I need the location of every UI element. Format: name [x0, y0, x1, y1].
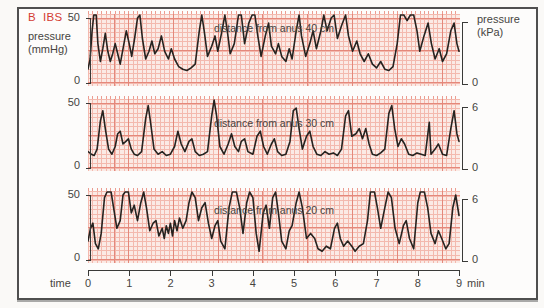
left-tick-0: 0 — [60, 74, 80, 86]
right-axis-bracket — [462, 22, 468, 85]
right-axis-bracket — [462, 107, 468, 170]
left-tick-0: 0 — [60, 251, 80, 263]
time-tick — [377, 270, 378, 276]
time-tick — [253, 270, 254, 276]
time-tick-label: 3 — [203, 277, 221, 289]
time-tick-label: 4 — [244, 277, 262, 289]
time-tick-label: 6 — [326, 277, 344, 289]
time-tick-label: 8 — [409, 277, 427, 289]
annotation-distance-30cm: distance from anus 30 cm — [88, 117, 460, 129]
left-tick-50: 50 — [60, 188, 80, 200]
time-tick — [294, 270, 295, 276]
pressure-trace-30cm — [88, 99, 460, 171]
time-tick-label: 5 — [285, 277, 303, 289]
left-tick-50: 50 — [60, 96, 80, 108]
pressure-panel-20cm: 50 0 6 0 distance from anus 20 cm — [88, 191, 460, 263]
time-axis-label: time — [50, 277, 71, 289]
time-tick — [129, 270, 130, 276]
time-tick — [418, 270, 419, 276]
time-tick-label: 0 — [79, 277, 97, 289]
time-tick — [88, 270, 89, 276]
time-axis-unit: min — [467, 277, 485, 289]
time-tick — [212, 270, 213, 276]
figure-ibs-pressure-recording: BIBS pressure (mmHg) pressure (kPa) 50 0… — [0, 0, 544, 308]
left-axis-title: pressure (mmHg) — [28, 30, 71, 56]
pressure-trace-20cm — [88, 191, 460, 263]
right-tick-0: 0 — [472, 253, 478, 265]
panel-heading: BIBS — [28, 11, 62, 23]
time-tick-label: 1 — [120, 277, 138, 289]
right-tick-0: 0 — [472, 76, 478, 88]
left-tick-50: 50 — [60, 11, 80, 23]
time-tick-label: 2 — [161, 277, 179, 289]
pressure-panel-40cm: 50 0 0 distance from anus 40 cm — [88, 14, 460, 86]
time-tick — [335, 270, 336, 276]
left-tick-0: 0 — [60, 159, 80, 171]
panel-letter: B — [28, 11, 36, 23]
time-axis-line — [88, 270, 460, 271]
right-axis-bracket — [462, 199, 468, 262]
time-tick — [170, 270, 171, 276]
right-tick-6: 6 — [472, 193, 478, 205]
pressure-panel-30cm: 50 0 6 0 distance from anus 30 cm — [88, 99, 460, 171]
left-axis-line — [86, 103, 91, 169]
right-tick-0: 0 — [472, 161, 478, 173]
time-tick-label: 9 — [450, 277, 468, 289]
time-axis: 0123456789 — [88, 270, 460, 298]
time-tick — [459, 270, 460, 276]
right-tick-6: 6 — [472, 101, 478, 113]
right-axis-title: pressure (kPa) — [477, 13, 520, 39]
annotation-distance-20cm: distance from anus 20 cm — [88, 204, 460, 216]
annotation-distance-40cm: distance from anus 40 cm — [88, 22, 460, 34]
time-tick-label: 7 — [368, 277, 386, 289]
